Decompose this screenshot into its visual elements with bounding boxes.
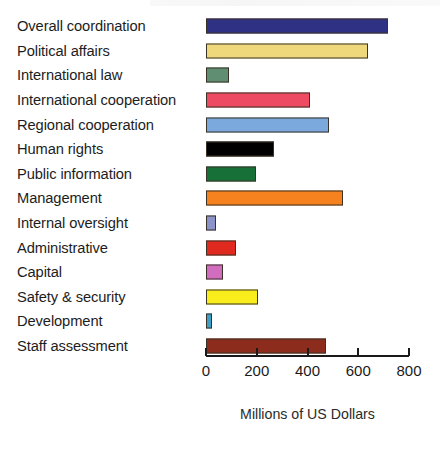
x-tick xyxy=(307,348,309,356)
bar-row: Administrative xyxy=(0,235,442,260)
x-tick-label: 600 xyxy=(346,362,371,380)
category-label: Overall coordination xyxy=(17,18,146,35)
category-label: International cooperation xyxy=(17,92,176,109)
bar xyxy=(206,19,388,34)
category-label: Internal oversight xyxy=(17,215,128,232)
x-tick-label: 200 xyxy=(244,362,269,380)
category-label: International law xyxy=(17,67,122,84)
category-label: Administrative xyxy=(17,239,108,256)
bar-row: Capital xyxy=(0,260,442,285)
bar-row: Management xyxy=(0,186,442,211)
category-label: Human rights xyxy=(17,141,103,158)
bar xyxy=(206,117,329,132)
bar xyxy=(206,191,343,206)
bar-row: Political affairs xyxy=(0,39,442,64)
bar xyxy=(206,93,310,108)
bar-row: Human rights xyxy=(0,137,442,162)
category-label: Safety & security xyxy=(17,288,126,305)
bar-row: Regional cooperation xyxy=(0,112,442,137)
x-tick xyxy=(205,348,207,356)
bar-chart: Overall coordinationPolitical affairsInt… xyxy=(0,0,442,452)
x-tick xyxy=(256,348,258,356)
category-label: Management xyxy=(17,190,102,207)
bar xyxy=(206,43,368,58)
x-axis-title: Millions of US Dollars xyxy=(206,406,409,422)
category-label: Political affairs xyxy=(17,42,110,59)
bar xyxy=(206,240,236,255)
x-tick-label: 400 xyxy=(295,362,320,380)
cropped-header-remnant xyxy=(150,0,440,6)
bar xyxy=(206,216,216,231)
x-tick xyxy=(357,348,359,356)
category-label: Capital xyxy=(17,264,62,281)
category-label: Staff assessment xyxy=(17,338,128,355)
x-tick-label: 800 xyxy=(396,362,421,380)
category-label: Public information xyxy=(17,165,132,182)
bar xyxy=(206,68,229,83)
bar xyxy=(206,314,212,329)
bar-row: Internal oversight xyxy=(0,211,442,236)
plot-area: Overall coordinationPolitical affairsInt… xyxy=(0,14,442,354)
bar-row: Public information xyxy=(0,162,442,187)
bar-row: Overall coordination xyxy=(0,14,442,39)
category-label: Regional cooperation xyxy=(17,116,154,133)
bar xyxy=(206,142,274,157)
category-label: Development xyxy=(17,313,102,330)
bar-row: International law xyxy=(0,63,442,88)
x-tick-label: 0 xyxy=(202,362,210,380)
bar xyxy=(206,265,223,280)
bar-row: Development xyxy=(0,309,442,334)
bar xyxy=(206,166,256,181)
x-tick xyxy=(408,348,410,356)
bar-row: International cooperation xyxy=(0,88,442,113)
bar-row: Safety & security xyxy=(0,285,442,310)
bar xyxy=(206,289,258,304)
